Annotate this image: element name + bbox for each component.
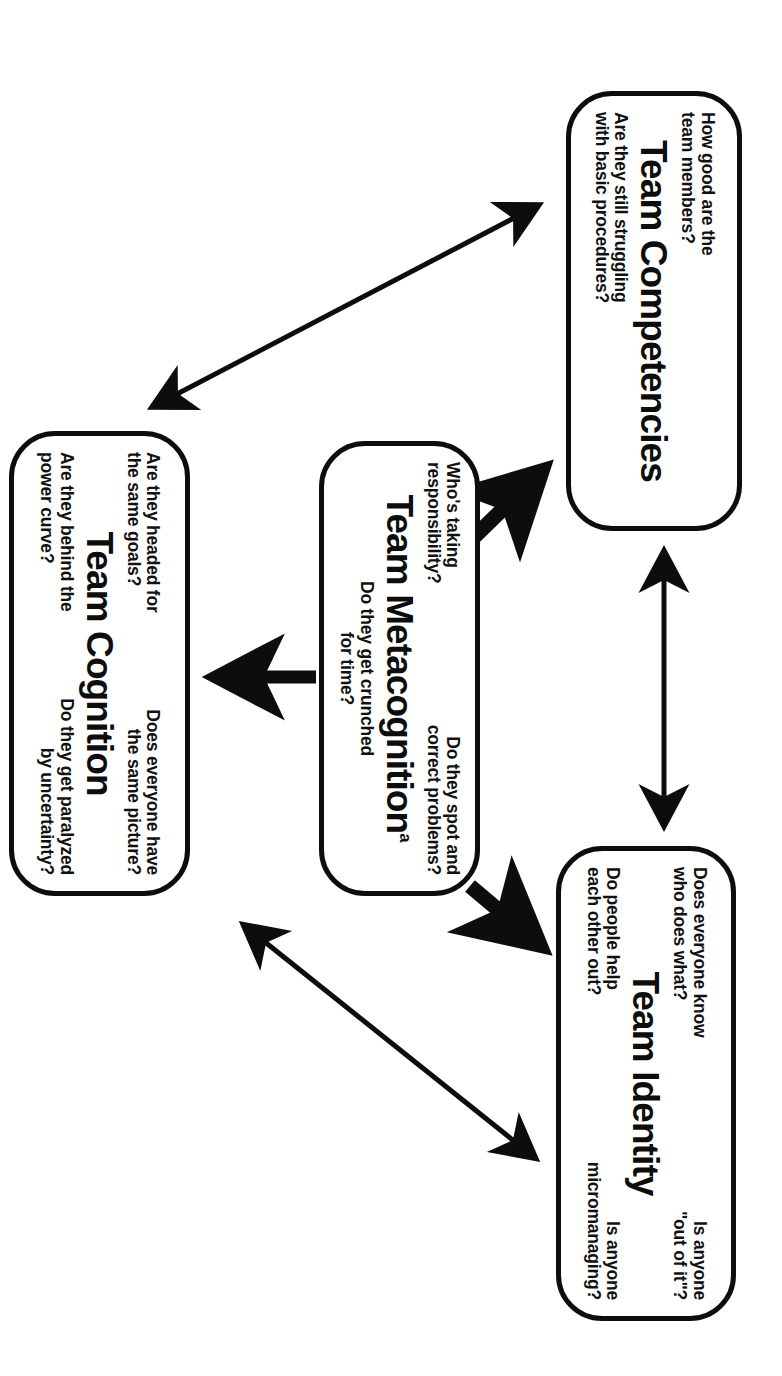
- box-team-identity[interactable]: Does everyone know who does what? Is any…: [556, 846, 736, 1321]
- question-cognition-top-left: Are they headed for the same goals?: [123, 452, 162, 613]
- question-identity-top-right: Is anyone "out of it"?: [670, 1211, 709, 1300]
- title-text: Team Metacognition: [379, 494, 420, 833]
- diagram-canvas: How good are the team members? Team Comp…: [0, 0, 782, 1376]
- connector-metacognition-identity: [470, 886, 540, 945]
- title-text: Team Competencies: [634, 140, 675, 482]
- title-team-identity: Team Identity: [628, 971, 665, 1195]
- box-team-metacognition[interactable]: Who's taking responsibility? Do they spo…: [319, 441, 480, 896]
- question-metacognition-bottom-center: Do they get crunched for time?: [337, 581, 376, 756]
- diagram-stage: How good are the team members? Team Comp…: [0, 0, 782, 1376]
- connector-competencies-cognition: [154, 206, 537, 406]
- title-team-competencies: Team Competencies: [636, 140, 673, 482]
- question-identity-bottom-left: Do people help each other out?: [583, 867, 622, 995]
- question-cognition-bottom-right: Do they get paralyzed by uncertainty?: [37, 698, 76, 875]
- title-text: Team Cognition: [79, 531, 120, 795]
- connector-metacognition-competencies: [471, 471, 542, 540]
- question-metacognition-top-left: Who's taking responsibility?: [423, 462, 462, 583]
- box-team-cognition[interactable]: Are they headed for the same goals? Does…: [9, 431, 190, 896]
- question-competencies-top-left: How good are the team members?: [678, 112, 717, 256]
- connector-identity-cognition: [245, 926, 534, 1157]
- question-identity-top-left: Does everyone know who does what?: [670, 867, 709, 1038]
- question-competencies-bottom-left: Are they still struggling with basic pro…: [591, 112, 630, 303]
- box-team-competencies[interactable]: How good are the team members? Team Comp…: [566, 91, 742, 531]
- title-superscript: a: [396, 833, 415, 842]
- question-cognition-top-right: Does everyone have the same picture?: [123, 709, 162, 875]
- question-metacognition-top-right: Do they spot and correct problems?: [423, 725, 462, 875]
- title-team-cognition: Team Cognition: [81, 531, 118, 795]
- question-cognition-bottom-left: Are they behind the power curve?: [37, 452, 76, 612]
- question-identity-bottom-right: Is anyone micromanaging?: [583, 1162, 622, 1300]
- title-team-metacognition: Team Metacognitiona: [381, 494, 418, 842]
- title-text: Team Identity: [626, 971, 667, 1195]
